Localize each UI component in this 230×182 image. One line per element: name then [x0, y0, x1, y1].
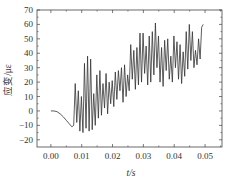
x-tick-label: 0.02 — [105, 151, 121, 161]
y-tick-label: −20 — [19, 135, 34, 145]
y-tick-label: 20 — [24, 77, 34, 87]
y-tick-label: −10 — [19, 120, 34, 130]
strain-series-line — [51, 23, 203, 133]
x-axis-title: t/s — [127, 168, 136, 178]
x-tick-label: 0.04 — [166, 151, 182, 161]
y-axis: −20−10010203040506070 — [19, 5, 222, 145]
x-tick-label: 0.01 — [74, 151, 90, 161]
y-tick-label: 60 — [24, 19, 34, 29]
x-axis: 0.000.010.020.030.040.05 — [43, 10, 220, 161]
y-tick-label: 70 — [24, 5, 34, 15]
y-tick-label: 40 — [24, 48, 34, 58]
y-tick-label: 0 — [29, 106, 34, 116]
x-tick-label: 0.00 — [43, 151, 59, 161]
y-tick-label: 10 — [24, 92, 34, 102]
y-tick-label: 30 — [24, 63, 34, 73]
y-tick-label: 50 — [24, 34, 34, 44]
strain-time-chart: −20−10010203040506070 0.000.010.020.030.… — [0, 0, 230, 182]
y-axis-title: 应变/με — [2, 64, 13, 96]
x-tick-label: 0.05 — [197, 151, 213, 161]
x-tick-label: 0.03 — [136, 151, 152, 161]
